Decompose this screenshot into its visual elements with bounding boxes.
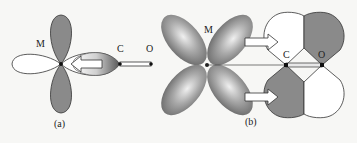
metal-center-b — [205, 63, 209, 67]
d-orbital-lobe-left — [12, 54, 61, 74]
metal-label: M — [36, 38, 45, 49]
carbon-atom-b — [284, 63, 288, 67]
oxygen-atom-b — [320, 63, 324, 67]
pi-star-lobe-o-bottom — [304, 65, 344, 118]
d-orbital-lobe-top — [50, 15, 71, 64]
oxygen-atom — [149, 62, 153, 66]
d-orbital-lobe-bottom — [50, 64, 71, 113]
caption-b: (b) — [245, 116, 257, 128]
co-bond — [120, 62, 151, 66]
co-bond-b — [286, 63, 322, 67]
orbital-diagram: M C O (a) M C O (b) — [0, 0, 357, 143]
oxygen-label: O — [146, 43, 153, 54]
carbon-atom — [118, 62, 122, 66]
carbon-label-b: C — [283, 49, 290, 60]
panel-a: M C O (a) — [12, 15, 153, 130]
metal-label-b: M — [204, 24, 213, 35]
carbon-label: C — [117, 43, 124, 54]
panel-b: M C O (b) — [152, 7, 344, 128]
metal-center — [59, 62, 63, 66]
oxygen-label-b: O — [318, 49, 325, 60]
caption-a: (a) — [54, 118, 65, 130]
